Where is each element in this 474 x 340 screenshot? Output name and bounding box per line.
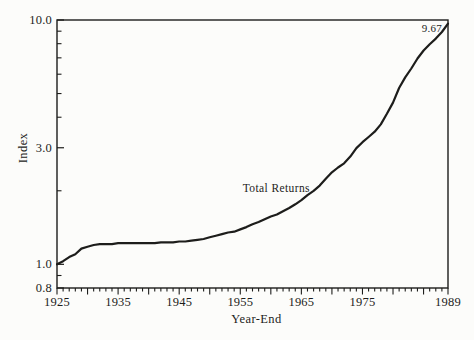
y-axis-tick-label: 1.0: [36, 257, 52, 271]
x-axis-tick-label: 1989: [435, 295, 461, 309]
end-value-label: 9.67: [422, 22, 442, 34]
x-axis-tick-label: 1935: [105, 295, 131, 309]
y-axis-tick-label: 0.8: [36, 281, 52, 295]
series-label: Total Returns: [243, 182, 310, 194]
x-axis-tick-label: 1965: [288, 295, 314, 309]
total-returns-curve: [57, 24, 448, 265]
y-axis-title: Index: [16, 132, 30, 163]
y-axis-tick-label: 3.0: [36, 141, 52, 155]
plot-frame: [57, 20, 448, 288]
x-axis-tick-label: 1975: [350, 295, 376, 309]
total-returns-figure: 10.03.01.00.8192519351945195519651975198…: [0, 0, 474, 340]
x-axis-tick-label: 1925: [44, 295, 70, 309]
x-axis-tick-label: 1945: [166, 295, 192, 309]
y-axis-tick-label: 10.0: [29, 13, 52, 27]
total-returns-log-line-chart: 10.03.01.00.8192519351945195519651975198…: [0, 0, 474, 340]
x-axis-title: Year-End: [231, 312, 282, 326]
x-axis-tick-label: 1955: [227, 295, 253, 309]
